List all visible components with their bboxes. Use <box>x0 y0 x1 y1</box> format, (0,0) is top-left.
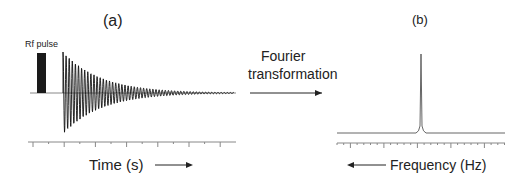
panel-a-plot <box>28 52 236 147</box>
time-axis-label: Time (s) <box>89 156 143 173</box>
panel-b-plot <box>337 54 505 148</box>
fourier-label-line2: transformation <box>248 66 337 82</box>
spectrum-line <box>337 54 505 133</box>
time-arrow <box>155 162 193 168</box>
frequency-arrow <box>347 162 386 168</box>
fid-signal <box>63 52 234 132</box>
rf-pulse-label: Rf pulse <box>25 39 58 49</box>
panel-b-label: (b) <box>412 12 428 27</box>
rf-pulse-bar <box>37 53 46 93</box>
transform-arrow <box>250 90 322 96</box>
panel-a-label: (a) <box>103 12 123 30</box>
fourier-label-line1: Fourier <box>261 48 305 64</box>
frequency-axis-label: Frequency (Hz) <box>390 157 486 173</box>
